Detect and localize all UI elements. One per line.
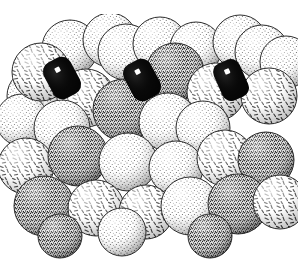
sphere bbox=[188, 214, 232, 258]
sphere bbox=[48, 126, 108, 186]
figure-root: clipped text line at top edge bbox=[0, 0, 298, 265]
packing-model-illustration bbox=[0, 0, 298, 265]
sphere bbox=[241, 68, 297, 124]
sphere bbox=[98, 208, 146, 256]
sphere bbox=[38, 214, 82, 258]
packing-model-svg bbox=[0, 0, 298, 265]
